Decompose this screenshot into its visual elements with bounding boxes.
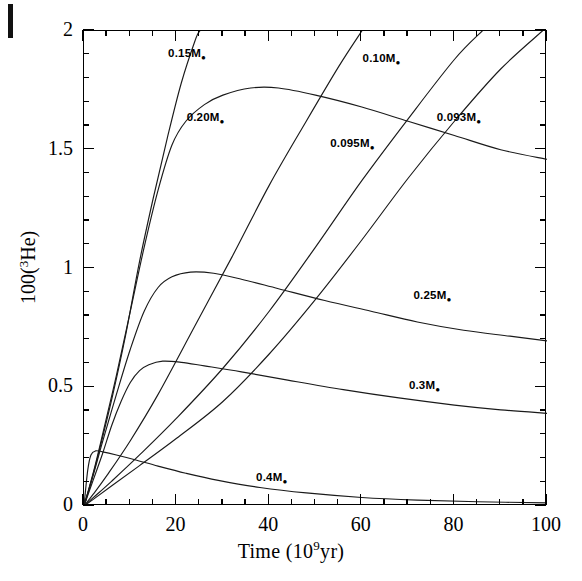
- y-axis-title-tail: He): [17, 231, 39, 261]
- x-tick-label-20: 20: [146, 514, 206, 534]
- y-axis-title: 100(3He): [16, 187, 41, 347]
- sun-symbol-icon: ●: [282, 477, 287, 486]
- x-tick-top-30: [221, 30, 222, 36]
- curve-label-04M: 0.4M●: [256, 471, 287, 486]
- curve-0093M: [84, 31, 542, 506]
- curve-0095M: [84, 31, 482, 506]
- curve-020M: [84, 87, 547, 506]
- x-tick-top-40: [268, 30, 269, 41]
- y-tick-right-0.2: [540, 457, 546, 458]
- x-tick-top-70: [406, 30, 407, 36]
- x-tick-label-60: 60: [331, 514, 391, 534]
- curve-label-03M: 0.3M●: [409, 379, 440, 394]
- y-tick-right-0.8: [540, 314, 546, 315]
- sun-symbol-icon: ●: [370, 143, 375, 152]
- x-tick-bottom-30: [221, 499, 222, 505]
- x-tick-bottom-5: [105, 499, 106, 505]
- x-tick-top-15: [152, 30, 153, 36]
- y-tick-left-0.6: [83, 362, 89, 363]
- y-tick-right-0.7: [540, 338, 546, 339]
- curve-label-0095M: 0.095M●: [330, 137, 375, 152]
- x-tick-bottom-90: [499, 499, 500, 505]
- y-tick-right-1.9: [540, 53, 546, 54]
- y-tick-left-1.2: [83, 219, 89, 220]
- sun-symbol-icon: ●: [435, 386, 440, 395]
- x-tick-bottom-45: [291, 499, 292, 505]
- x-axis-title-tail: yr): [320, 540, 344, 562]
- y-tick-right-1.3: [540, 196, 546, 197]
- sun-symbol-icon: ●: [396, 58, 401, 67]
- x-tick-bottom-95: [522, 499, 523, 505]
- curve-label-text: 0.093M: [437, 111, 477, 123]
- curve-label-0093M: 0.093M●: [437, 111, 482, 126]
- curve-label-text: 0.4M: [256, 471, 282, 483]
- curve-label-text: 0.095M: [330, 137, 370, 149]
- x-tick-top-0: [82, 30, 83, 41]
- x-tick-top-35: [244, 30, 245, 36]
- y-tick-left-2: [83, 29, 94, 30]
- plot-area: [83, 30, 546, 505]
- x-tick-bottom-15: [152, 499, 153, 505]
- y-tick-right-1.7: [540, 101, 546, 102]
- y-tick-left-1.5: [83, 148, 94, 149]
- x-tick-top-20: [175, 30, 176, 41]
- curve-015M: [84, 31, 200, 506]
- x-tick-top-10: [129, 30, 130, 36]
- x-tick-top-80: [453, 30, 454, 41]
- y-tick-right-1.4: [540, 172, 546, 173]
- curve-canvas: [84, 31, 547, 506]
- x-tick-bottom-50: [314, 499, 315, 505]
- y-tick-left-1.6: [83, 124, 89, 125]
- curve-010M: [84, 31, 362, 506]
- x-tick-bottom-40: [268, 494, 269, 505]
- x-tick-top-45: [291, 30, 292, 36]
- x-tick-bottom-20: [175, 494, 176, 505]
- curve-label-text: 0.3M: [409, 379, 435, 391]
- y-tick-left-1.8: [83, 77, 89, 78]
- x-tick-top-5: [105, 30, 106, 36]
- y-tick-left-0.3: [83, 433, 89, 434]
- figure-3he-vs-time: 02040608010000.511.52 0.093M●0.095M●0.10…: [0, 0, 582, 581]
- sun-symbol-icon: ●: [476, 117, 481, 126]
- x-tick-top-100: [545, 30, 546, 41]
- y-axis-title-exponent: 3: [16, 261, 31, 268]
- y-tick-label-0: 0: [11, 494, 73, 514]
- y-tick-right-1.5: [535, 148, 546, 149]
- x-tick-bottom-75: [430, 499, 431, 505]
- x-tick-label-100: 100: [516, 514, 576, 534]
- x-tick-top-55: [337, 30, 338, 36]
- y-tick-left-1.9: [83, 53, 89, 54]
- y-tick-label-1.5: 1.5: [11, 138, 73, 158]
- curve-label-text: 0.15M: [168, 47, 201, 59]
- x-tick-top-50: [314, 30, 315, 36]
- x-tick-top-75: [430, 30, 431, 36]
- y-tick-right-0.3: [540, 433, 546, 434]
- y-tick-right-0.4: [540, 409, 546, 410]
- x-tick-top-25: [198, 30, 199, 36]
- x-axis-title: Time (109yr): [0, 538, 582, 563]
- y-tick-left-0.2: [83, 457, 89, 458]
- y-tick-left-1.4: [83, 172, 89, 173]
- x-tick-top-65: [383, 30, 384, 36]
- y-tick-right-0: [535, 504, 546, 505]
- x-tick-bottom-80: [453, 494, 454, 505]
- y-tick-right-1.8: [540, 77, 546, 78]
- curve-label-015M: 0.15M●: [168, 47, 206, 62]
- y-tick-right-1: [535, 267, 546, 268]
- curve-label-text: 0.25M: [414, 289, 447, 301]
- x-tick-bottom-65: [383, 499, 384, 505]
- x-tick-label-80: 80: [423, 514, 483, 534]
- y-tick-left-1: [83, 267, 94, 268]
- y-tick-left-0.1: [83, 481, 89, 482]
- y-tick-left-0.4: [83, 409, 89, 410]
- curve-label-text: 0.20M: [187, 111, 220, 123]
- x-tick-bottom-85: [476, 499, 477, 505]
- y-tick-right-2: [535, 29, 546, 30]
- curve-label-025M: 0.25M●: [414, 289, 452, 304]
- x-tick-bottom-35: [244, 499, 245, 505]
- y-tick-right-0.6: [540, 362, 546, 363]
- y-axis-title-main: 100(: [17, 267, 39, 304]
- sun-symbol-icon: ●: [201, 53, 206, 62]
- curve-025M: [84, 272, 547, 506]
- curve-03M: [84, 361, 547, 506]
